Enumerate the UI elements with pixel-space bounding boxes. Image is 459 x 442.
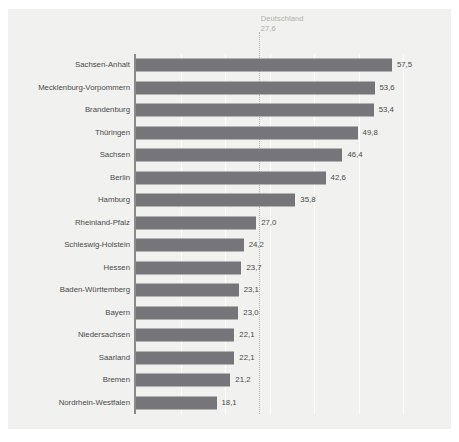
bar[interactable] (136, 239, 244, 252)
bar[interactable] (136, 104, 374, 117)
bar-row[interactable]: Sachsen-Anhalt57,5 (134, 54, 443, 77)
chart-panel: Deutschland 27,6 Sachsen-Anhalt57,5Meckl… (8, 9, 451, 429)
bar[interactable] (136, 216, 256, 229)
category-label: Berlin (0, 173, 130, 183)
bar[interactable] (136, 59, 392, 72)
bar-row[interactable]: Schleswig-Holstein24,2 (134, 234, 443, 257)
bar[interactable] (136, 351, 234, 364)
bar-value-label: 24,2 (249, 240, 264, 250)
bar-value-label: 57,5 (397, 60, 412, 70)
category-label: Thüringen (0, 128, 130, 138)
bar-row[interactable]: Bayern23,0 (134, 302, 443, 325)
category-label: Rheinland-Pfalz (0, 218, 130, 228)
deutschland-reference-label: Deutschland 27,6 (261, 14, 304, 33)
bar[interactable] (136, 261, 241, 274)
bar-value-label: 46,4 (347, 150, 362, 160)
category-label: Saarland (0, 353, 130, 363)
clipped-top-text (8, 0, 308, 7)
bar-chart-figure: Deutschland 27,6 Sachsen-Anhalt57,5Meckl… (0, 0, 459, 442)
bar-row-group: Sachsen-Anhalt57,5Mecklenburg-Vorpommern… (134, 54, 443, 414)
bar-row[interactable]: Baden-Württemberg23,1 (134, 279, 443, 302)
bar-row[interactable]: Brandenburg53,4 (134, 99, 443, 122)
bar-value-label: 23,0 (243, 308, 258, 318)
bar-value-label: 22,1 (239, 353, 254, 363)
bar[interactable] (136, 194, 295, 207)
bar-value-label: 23,7 (246, 263, 261, 273)
bar[interactable] (136, 126, 358, 139)
bar[interactable] (136, 374, 230, 387)
bar[interactable] (136, 329, 234, 342)
bar-value-label: 49,8 (363, 128, 378, 138)
category-label: Hamburg (0, 195, 130, 205)
bar-value-label: 27,0 (261, 218, 276, 228)
category-label: Bremen (0, 375, 130, 385)
bar[interactable] (136, 396, 217, 409)
category-label: Schleswig-Holstein (0, 240, 130, 250)
bar[interactable] (136, 149, 342, 162)
bar-row[interactable]: Rheinland-Pfalz27,0 (134, 212, 443, 235)
category-label: Bayern (0, 308, 130, 318)
bar-value-label: 42,6 (331, 173, 346, 183)
category-label: Sachsen-Anhalt (0, 60, 130, 70)
category-label: Mecklenburg-Vorpommern (0, 83, 130, 93)
bar-row[interactable]: Hamburg35,8 (134, 189, 443, 212)
bar-value-label: 18,1 (222, 398, 237, 408)
bar[interactable] (136, 171, 326, 184)
reference-label-value: 27,6 (261, 24, 304, 34)
category-label: Brandenburg (0, 105, 130, 115)
bar[interactable] (136, 81, 375, 94)
bar-value-label: 21,2 (235, 375, 250, 385)
bar-value-label: 53,4 (379, 105, 394, 115)
bar[interactable] (136, 306, 238, 319)
bar-row[interactable]: Mecklenburg-Vorpommern53,6 (134, 77, 443, 100)
bar-row[interactable]: Berlin42,6 (134, 167, 443, 190)
category-label: Hessen (0, 263, 130, 273)
bar-row[interactable]: Thüringen49,8 (134, 122, 443, 145)
bar-row[interactable]: Nordrhein-Westfalen18,1 (134, 392, 443, 415)
bar[interactable] (136, 284, 239, 297)
bar-row[interactable]: Hessen23,7 (134, 257, 443, 280)
bar-value-label: 23,1 (244, 285, 259, 295)
bar-row[interactable]: Sachsen46,4 (134, 144, 443, 167)
bar-value-label: 35,8 (300, 195, 315, 205)
bar-row[interactable]: Saarland22,1 (134, 347, 443, 370)
category-label: Nordrhein-Westfalen (0, 398, 130, 408)
bar-value-label: 22,1 (239, 330, 254, 340)
category-label: Baden-Württemberg (0, 285, 130, 295)
category-label: Niedersachsen (0, 330, 130, 340)
bar-value-label: 53,6 (380, 83, 395, 93)
bar-row[interactable]: Bremen21,2 (134, 369, 443, 392)
bar-row[interactable]: Niedersachsen22,1 (134, 324, 443, 347)
reference-label-name: Deutschland (261, 14, 304, 23)
plot-area: Deutschland 27,6 Sachsen-Anhalt57,5Meckl… (134, 54, 443, 414)
category-label: Sachsen (0, 150, 130, 160)
